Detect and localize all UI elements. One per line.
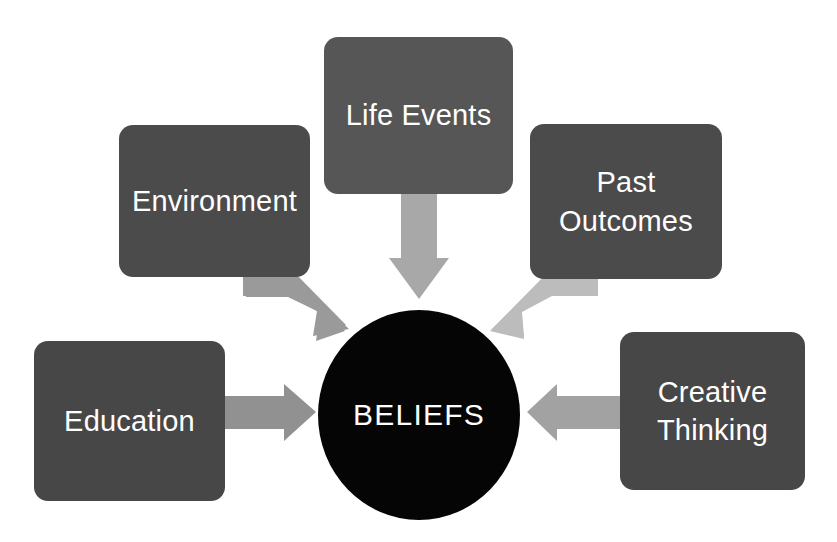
node-education-label: Education <box>64 402 195 440</box>
node-past-outcomes[interactable]: Past Outcomes <box>530 124 722 279</box>
node-beliefs[interactable]: BELIEFS <box>318 310 520 520</box>
node-education[interactable]: Education <box>34 341 225 501</box>
node-past-outcomes-label: Past Outcomes <box>559 163 693 240</box>
node-environment[interactable]: Environment <box>119 125 310 277</box>
node-life-events[interactable]: Life Events <box>324 37 513 194</box>
node-creative-thinking[interactable]: Creative Thinking <box>620 332 805 490</box>
diagram-canvas: Environment Life Events Past Outcomes Ed… <box>0 0 837 542</box>
arrow-education-to-beliefs <box>219 384 316 441</box>
node-creative-thinking-label: Creative Thinking <box>657 373 768 450</box>
arrow-creative-thinking-to-beliefs <box>527 384 622 441</box>
arrow-life-events-to-beliefs <box>389 190 449 299</box>
node-life-events-label: Life Events <box>346 96 492 134</box>
arrow-environment-to-beliefs <box>243 266 349 341</box>
node-beliefs-label: BELIEFS <box>353 398 485 432</box>
node-environment-label: Environment <box>132 182 297 220</box>
